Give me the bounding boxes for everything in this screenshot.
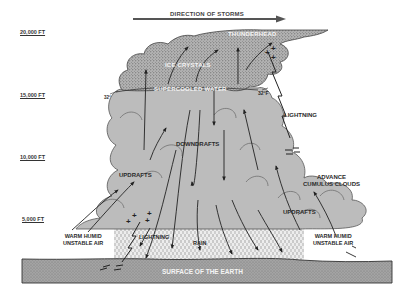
warm-humid-air-right-label: WARM HUMID UNSTABLE AIR [313,234,353,246]
lightning-upper-label: LIGHTNING [284,112,317,118]
supercooled-water-label: SUPERCOOLED WATER [154,86,227,92]
thunderhead-label: THUNDERHEAD [228,31,277,37]
warm-right-line1: WARM HUMID [313,234,353,240]
downdrafts-label: DOWNDRAFTS [176,141,219,147]
freezing-32f-right: 32°F [258,91,269,96]
advance-line1: ADVANCE [303,174,360,180]
warm-right-line2: UNSTABLE AIR [313,241,353,247]
altitude-5000: 5,000 FT [22,217,44,223]
thunderstorm-diagram: + + + + + + + [0,0,405,307]
updrafts-right-label: UPDRAFTS [283,209,316,215]
advance-line2: CUMULUS CLOUDS [303,181,360,187]
svg-text:+: + [271,53,276,62]
cloud-upper-thunderhead [119,30,328,91]
svg-text:+: + [126,217,131,226]
svg-text:+: + [132,211,137,220]
altitude-10000: 10,000 FT [20,155,45,161]
advance-cumulus-label: ADVANCE CUMULUS CLOUDS [303,174,360,187]
altitude-20000: 20,000 FT [20,30,45,36]
freezing-32-left: 32° [104,96,111,101]
svg-text:+: + [145,216,150,225]
surface-of-earth-label: SURFACE OF THE EARTH [162,269,243,276]
updrafts-left-label: UPDRAFTS [119,172,152,178]
direction-of-storms-label: DIRECTION OF STORMS [170,11,244,17]
warm-humid-air-left-label: WARM HUMID UNSTABLE AIR [63,234,103,246]
altitude-15000: 15,000 FT [20,93,45,99]
warm-left-line1: WARM HUMID [63,234,103,240]
svg-text:+: + [265,48,270,57]
rain-label: RAIN [193,241,206,247]
ice-crystals-label: ICE CRYSTALS [165,62,211,68]
warm-left-line2: UNSTABLE AIR [63,241,103,247]
svg-text:+: + [271,44,276,53]
lightning-lower-label: LIGHTNING [139,235,169,241]
